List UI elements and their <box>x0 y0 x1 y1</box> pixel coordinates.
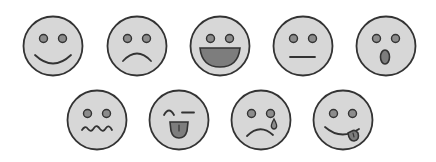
queasy-face-icon <box>66 89 128 151</box>
laughing-face-icon <box>189 15 251 77</box>
silly-tongue-face-icon <box>312 89 374 151</box>
crying-face-icon <box>230 89 292 151</box>
surprised-face-icon <box>355 15 417 77</box>
wink-tongue-face-icon <box>148 89 210 151</box>
emoji-face-grid <box>0 0 436 162</box>
sad-face-icon <box>106 15 168 77</box>
neutral-face-icon <box>272 15 334 77</box>
smile-face-icon <box>22 15 84 77</box>
